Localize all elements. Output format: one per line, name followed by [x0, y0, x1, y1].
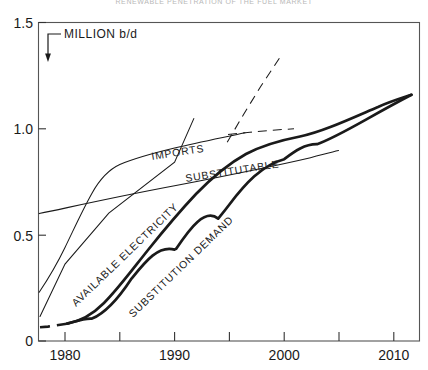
x-tick-label-2010: 2010: [378, 347, 409, 363]
x-tick-label-1980: 1980: [49, 347, 80, 363]
curve-label-available-electricity: AVAILABLE ELECTRICITY: [69, 200, 180, 308]
x-axis-ticks: [65, 332, 394, 341]
y-tick-label-1_0: 1.0: [14, 121, 34, 137]
series-substitution-demand: [67, 95, 411, 324]
y-tick-label-1_5: 1.5: [14, 15, 34, 31]
units-annotation-label: MILLION b/d: [64, 27, 138, 41]
y-axis-ticks: [39, 23, 47, 342]
y-tick-label-0_5: 0.5: [14, 228, 34, 244]
chart-figure: RENEWABLE PENETRATION OF THE FUEL MARKET…: [0, 0, 428, 370]
y-tick-label-0: 0: [25, 333, 33, 349]
x-tick-label-2000: 2000: [269, 347, 300, 363]
series-imports: [39, 133, 245, 292]
curve-label-imports: IMPORTS: [150, 142, 204, 162]
series-substitution-demand-start: [40, 324, 67, 328]
series-steep-projection: [227, 58, 279, 142]
chart-canvas: 1.5 1.0 0.5 0 1980 1990 2000 2010 MILLIO…: [0, 0, 428, 370]
plot-frame: [39, 23, 420, 342]
x-tick-label-1990: 1990: [159, 347, 190, 363]
series-substitution-demand-smooth: [67, 95, 411, 324]
series-substitutable-projection: [228, 129, 294, 135]
units-annotation-arrow: [45, 34, 61, 62]
